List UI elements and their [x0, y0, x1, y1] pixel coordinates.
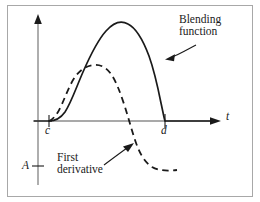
blending-annotation-arrow-line: [172, 45, 196, 57]
firstderiv-annotation-arrowhead: [123, 143, 134, 152]
axis-tick-label-c: c: [45, 125, 50, 137]
label-blending-line1: Blending: [179, 14, 221, 26]
y-axis-arrowhead: [34, 14, 42, 24]
axis-label-t: t: [226, 111, 229, 123]
label-blending-function: Blending function: [179, 14, 221, 37]
axis-tick-label-d: d: [161, 125, 167, 137]
firstderiv-annotation-arrow-line: [104, 148, 127, 165]
figure-container: Blending function First derivative c d t…: [0, 0, 260, 202]
label-first-derivative: First derivative: [57, 152, 103, 175]
label-firstderiv-line1: First: [57, 152, 103, 164]
label-blending-line2: function: [179, 26, 221, 38]
axis-tick-label-a: A: [22, 160, 29, 172]
blending-annotation-arrowhead: [165, 54, 175, 61]
curve-blending-function: [49, 22, 165, 121]
label-firstderiv-line2: derivative: [57, 164, 103, 176]
